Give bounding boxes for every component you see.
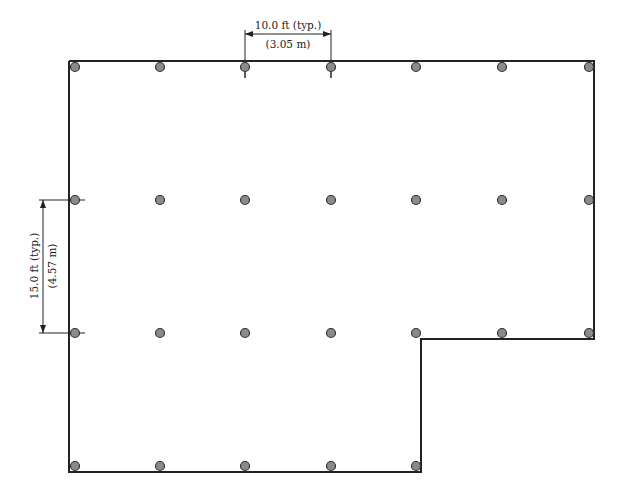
- column-marker: [71, 63, 80, 72]
- arrowhead-down-icon: [40, 325, 46, 333]
- column-marker: [412, 63, 421, 72]
- arrowhead-right-icon: [323, 31, 331, 37]
- column-marker: [498, 196, 507, 205]
- column-marker: [156, 196, 165, 205]
- column-marker: [498, 63, 507, 72]
- column-marker: [327, 63, 336, 72]
- column-marker: [327, 196, 336, 205]
- building-outline: [69, 61, 594, 472]
- column-marker: [241, 63, 250, 72]
- column-marker: [412, 329, 421, 338]
- column-marker: [585, 196, 594, 205]
- column-marker: [241, 196, 250, 205]
- column-marker: [71, 329, 80, 338]
- arrowhead-left-icon: [245, 31, 253, 37]
- column-marker: [412, 462, 421, 471]
- column-marker: [71, 462, 80, 471]
- horizontal-dimension: 10.0 ft (typ.) (3.05 m): [245, 19, 331, 78]
- vertical-dimension: 15.0 ft (typ.) (4.57 m): [28, 200, 85, 333]
- column-marker: [156, 63, 165, 72]
- floor-plan-diagram: 10.0 ft (typ.) (3.05 m) 15.0 ft (typ.) (…: [0, 0, 623, 496]
- column-marker: [412, 196, 421, 205]
- column-marker: [585, 63, 594, 72]
- vertical-dimension-label: 15.0 ft (typ.): [28, 233, 40, 300]
- column-marker: [241, 462, 250, 471]
- column-marker: [241, 329, 250, 338]
- column-marker: [156, 329, 165, 338]
- column-marker: [156, 462, 165, 471]
- column-marker: [71, 196, 80, 205]
- horizontal-dimension-label: 10.0 ft (typ.): [255, 19, 322, 31]
- column-marker: [585, 329, 594, 338]
- column-marker: [327, 462, 336, 471]
- arrowhead-up-icon: [40, 200, 46, 208]
- column-marker: [327, 329, 336, 338]
- vertical-dimension-metric: (4.57 m): [46, 244, 58, 289]
- column-marker: [498, 329, 507, 338]
- horizontal-dimension-metric: (3.05 m): [266, 38, 311, 50]
- column-grid: [71, 63, 594, 471]
